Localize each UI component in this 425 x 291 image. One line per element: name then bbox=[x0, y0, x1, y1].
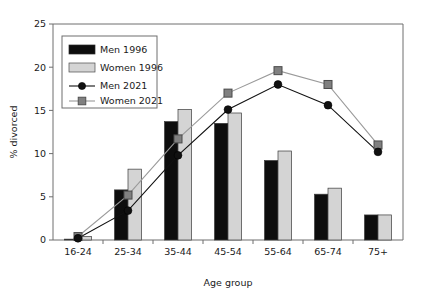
legend-label-women-1996: Women 1996 bbox=[100, 62, 163, 73]
legend-label-men-1996: Men 1996 bbox=[100, 44, 147, 55]
legend-swatch-women-1996 bbox=[69, 63, 95, 72]
marker-men-2021 bbox=[324, 101, 332, 109]
legend-marker-women-2021 bbox=[78, 97, 86, 105]
legend-swatch-men-1996 bbox=[69, 45, 95, 54]
divorce-rate-grouped-bar-line-chart: 051015202516-2425-3435-4445-5455-6465-74… bbox=[0, 0, 425, 291]
y-axis-tick-label: 10 bbox=[34, 148, 46, 159]
bar-men-1996 bbox=[315, 194, 329, 240]
bar-men-1996 bbox=[365, 215, 379, 240]
marker-men-2021 bbox=[174, 151, 182, 159]
marker-men-2021 bbox=[74, 234, 82, 242]
marker-women-2021 bbox=[224, 89, 232, 97]
x-axis-category-label: 55-64 bbox=[264, 246, 292, 257]
marker-women-2021 bbox=[174, 135, 182, 143]
marker-women-2021 bbox=[324, 80, 332, 88]
x-axis-category-label: 35-44 bbox=[164, 246, 192, 257]
marker-women-2021 bbox=[124, 191, 132, 199]
chart-container: 051015202516-2425-3435-4445-5455-6465-74… bbox=[0, 0, 425, 291]
bar-women-1996 bbox=[228, 113, 242, 240]
legend-label-men-2021: Men 2021 bbox=[100, 80, 147, 91]
legend-marker-men-2021 bbox=[78, 82, 85, 89]
bar-women-1996 bbox=[378, 215, 392, 240]
legend-label-women-2021: Women 2021 bbox=[100, 95, 163, 106]
y-axis-tick-label: 5 bbox=[40, 191, 46, 202]
x-axis-category-label: 65-74 bbox=[314, 246, 342, 257]
y-axis-tick-label: 15 bbox=[34, 105, 46, 116]
x-axis-category-label: 45-54 bbox=[214, 246, 242, 257]
bar-women-1996 bbox=[328, 188, 342, 240]
bar-women-1996 bbox=[278, 151, 292, 240]
marker-men-2021 bbox=[374, 148, 382, 156]
x-axis-category-label: 25-34 bbox=[114, 246, 142, 257]
bar-men-1996 bbox=[215, 123, 229, 240]
marker-women-2021 bbox=[274, 67, 282, 75]
x-axis-category-label: 75+ bbox=[368, 246, 388, 257]
x-axis-category-label: 16-24 bbox=[64, 246, 92, 257]
y-axis-tick-label: 0 bbox=[40, 234, 46, 245]
marker-men-2021 bbox=[224, 106, 232, 114]
y-axis-tick-label: 20 bbox=[34, 62, 46, 73]
y-axis-title: % divorced bbox=[8, 106, 19, 159]
bar-men-1996 bbox=[265, 161, 279, 240]
y-axis-tick-label: 25 bbox=[34, 18, 46, 29]
bar-women-1996 bbox=[128, 169, 142, 240]
marker-men-2021 bbox=[124, 207, 132, 215]
x-axis-title: Age group bbox=[204, 277, 253, 288]
marker-men-2021 bbox=[274, 81, 282, 89]
